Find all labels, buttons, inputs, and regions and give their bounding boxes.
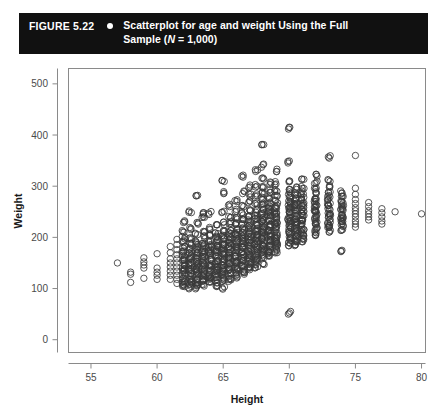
figure-title-line2-suffix: = 1,000) — [175, 33, 217, 45]
scatter-point — [167, 276, 173, 282]
x-axis-title: Height — [231, 393, 264, 405]
figure-title-line1: Scatterplot for age and weight Using the… — [123, 19, 348, 31]
x-axis-tick-label: 65 — [218, 372, 230, 383]
x-axis-tick-label: 80 — [416, 372, 428, 383]
scatter-point — [154, 276, 160, 282]
figure-number-label: FIGURE 5.22 — [29, 18, 94, 33]
scatter-point — [352, 185, 358, 191]
x-axis-ticks: 556065707580 — [85, 364, 427, 384]
y-axis-tick-label: 100 — [31, 283, 48, 294]
scatter-point — [219, 177, 225, 183]
x-axis-tick-label: 60 — [152, 372, 164, 383]
scatter-point — [114, 260, 120, 266]
y-axis-tick-label: 300 — [31, 181, 48, 192]
y-axis-title: Weight — [12, 193, 24, 228]
y-axis-tick-label: 0 — [42, 334, 48, 345]
scatter-point — [352, 152, 358, 158]
bullet-dot-icon — [107, 23, 113, 29]
figure-caption-bar: FIGURE 5.22 Scatterplot for age and weig… — [19, 13, 428, 54]
scatter-point — [167, 243, 173, 249]
scatter-points-layer — [114, 124, 425, 317]
scatter-point — [392, 209, 398, 215]
x-axis-tick-label: 70 — [284, 372, 296, 383]
scatter-point — [220, 219, 226, 225]
scatter-point — [418, 211, 424, 217]
y-axis-tick-label: 400 — [31, 130, 48, 141]
scatter-point — [141, 275, 147, 281]
scatterplot-figure: 0100200300400500 556065707580 Weight Hei… — [0, 54, 448, 413]
y-axis-tick-label: 200 — [31, 232, 48, 243]
x-axis-tick-label: 75 — [350, 372, 362, 383]
scatter-point — [127, 279, 133, 285]
scatter-point — [154, 251, 160, 257]
scatter-point — [326, 229, 332, 235]
y-axis-tick-label: 500 — [31, 78, 48, 89]
scatter-point — [167, 250, 173, 256]
figure-title-text: Scatterplot for age and weight Using the… — [123, 18, 348, 46]
figure-title-line2-prefix: Sample ( — [123, 33, 167, 45]
y-axis-ticks: 0100200300400500 — [31, 78, 57, 345]
x-axis-tick-label: 55 — [85, 372, 97, 383]
figure-title-line2-italic: N — [167, 33, 175, 45]
scatterplot-canvas: 0100200300400500 556065707580 Weight Hei… — [0, 54, 448, 413]
